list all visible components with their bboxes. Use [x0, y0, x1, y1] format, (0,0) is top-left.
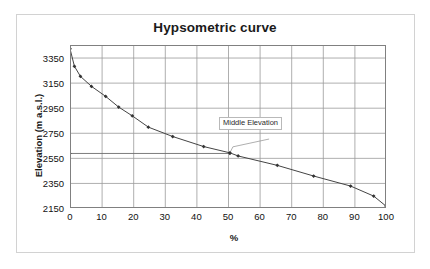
middle-elevation-annotation: Middle Elevation: [219, 117, 282, 130]
x-axis-tick-label: 100: [366, 211, 406, 222]
y-axis-tick-label: 2350: [20, 177, 64, 188]
annotation-leader-line: [230, 139, 269, 153]
chart-title: Hypsometric curve: [0, 20, 430, 35]
chart-figure: Hypsometric curve Elevation (m a.s.l.) 2…: [0, 0, 430, 269]
middle-elevation-reference-line: [70, 152, 232, 155]
y-axis-tick-label: 3150: [20, 77, 64, 88]
x-axis-title: %: [64, 232, 404, 243]
y-axis-tick-label: 3350: [20, 52, 64, 63]
y-axis-tick-label: 2750: [20, 127, 64, 138]
y-axis-tick-label: 2950: [20, 102, 64, 113]
y-axis-tick-label: 2550: [20, 152, 64, 163]
